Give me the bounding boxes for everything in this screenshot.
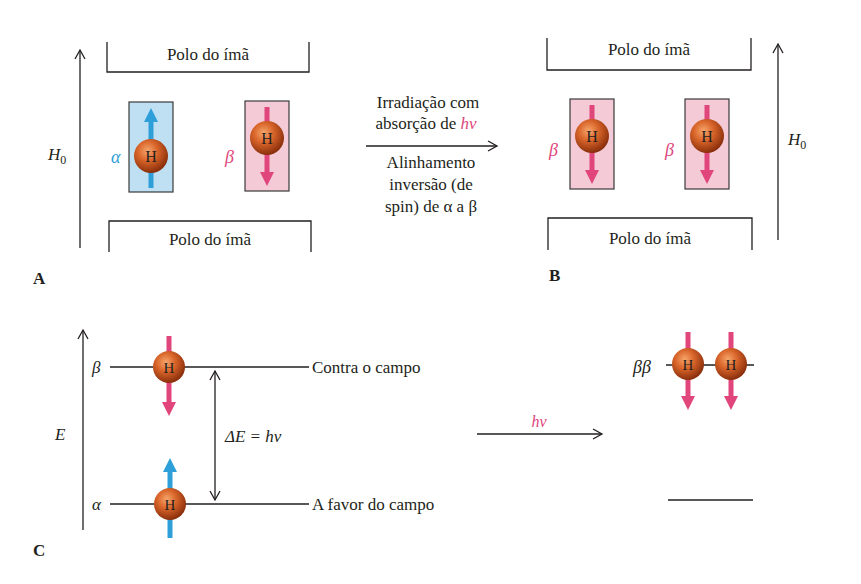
beta-spin-1: H β xyxy=(548,99,614,189)
svg-text:H: H xyxy=(145,148,157,165)
energy-gap-label: ΔE = hν xyxy=(224,427,282,446)
nmr-spin-diagram: H0 Polo do ímã Polo do ímã H α H β A Ir xyxy=(0,0,861,584)
alpha-nucleus: H xyxy=(154,458,186,538)
bottom-pole-label: Polo do ímã xyxy=(169,230,252,249)
panel-c: E β Contra o campo H α A favor do campo … xyxy=(33,330,754,560)
alpha-level-text: A favor do campo xyxy=(312,495,434,514)
svg-text:H: H xyxy=(164,360,175,376)
energy-axis-label: E xyxy=(54,425,66,444)
beta-symbol: β xyxy=(224,147,234,167)
excited-nucleus-2: H xyxy=(715,332,747,410)
svg-text:H: H xyxy=(586,128,598,145)
top-pole-label: Polo do ímã xyxy=(167,45,250,64)
svg-text:H: H xyxy=(683,357,694,373)
alpha-spin: H α xyxy=(111,102,173,192)
beta-level-text: Contra o campo xyxy=(312,358,421,377)
field-label: H0 xyxy=(47,145,66,167)
alpha-level-symbol: α xyxy=(92,495,102,514)
svg-text:H: H xyxy=(726,357,737,373)
bottom-pole-label: Polo do ímã xyxy=(609,229,692,248)
top-pole-label: Polo do ímã xyxy=(608,40,691,59)
panel-label-c: C xyxy=(33,541,45,560)
field-label: H0 xyxy=(787,130,806,152)
beta-symbol: β xyxy=(548,140,558,160)
transition-below-2: inversão (de xyxy=(389,175,473,194)
beta-spin-2: H β xyxy=(664,99,729,189)
transition-below-1: Alinhamento xyxy=(387,153,476,172)
transition-below-3: spin) de α a β xyxy=(385,197,477,216)
beta-beta-symbol: ββ xyxy=(632,357,651,377)
beta-symbol: β xyxy=(664,140,674,160)
spin-down-arrow-icon xyxy=(681,396,695,410)
beta-level-symbol: β xyxy=(91,358,101,377)
hv-label: hν xyxy=(531,413,547,430)
panel-b: Polo do ímã Polo do ímã H β H β H0 B xyxy=(547,38,806,285)
excited-nucleus-1: H xyxy=(672,332,704,410)
svg-text:H: H xyxy=(701,128,713,145)
beta-nucleus: H xyxy=(153,336,185,416)
panel-label-a: A xyxy=(33,269,46,288)
alpha-symbol: α xyxy=(111,147,121,167)
spin-down-arrow-icon xyxy=(162,402,176,416)
transition: Irradiação com absorção de hν Alinhament… xyxy=(366,93,497,216)
svg-text:H: H xyxy=(165,497,176,513)
spin-up-arrow-icon xyxy=(163,458,177,472)
panel-a: H0 Polo do ímã Polo do ímã H α H β A xyxy=(33,42,311,288)
beta-spin: H β xyxy=(224,101,289,191)
panel-label-b: B xyxy=(549,266,560,285)
spin-down-arrow-icon xyxy=(724,396,738,410)
svg-text:H: H xyxy=(261,130,273,147)
transition-line1: Irradiação com xyxy=(377,93,479,112)
transition-line2: absorção de hν xyxy=(375,114,476,133)
